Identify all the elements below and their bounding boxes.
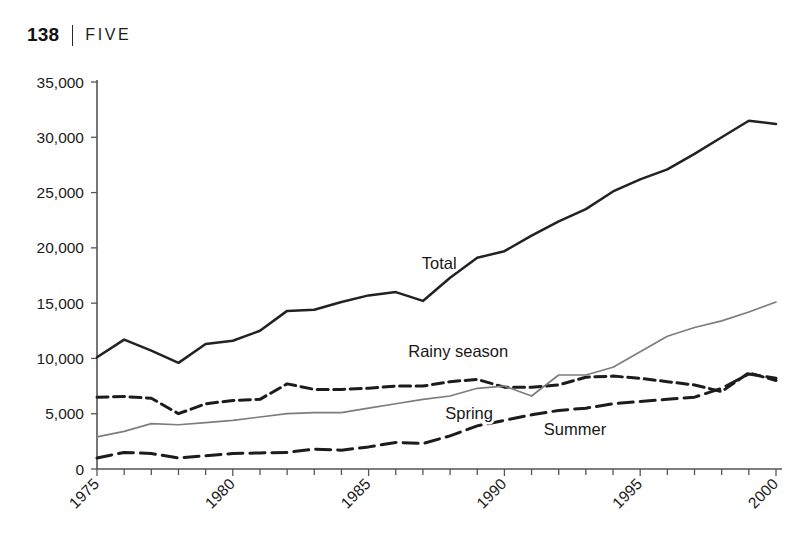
series-label-spring: Spring [445, 404, 493, 422]
series-line-total [97, 121, 776, 363]
series-label-rainy-season: Rainy season [408, 342, 508, 360]
x-tick-label: 1975 [66, 475, 102, 511]
y-tick-label: 0 [75, 461, 84, 478]
x-tick-label: 1980 [202, 475, 239, 512]
line-chart-figure: 05,00010,00015,00020,00025,00030,00035,0… [0, 0, 794, 551]
series-line-spring [97, 302, 776, 437]
series-lines [97, 121, 776, 458]
chart-canvas: 05,00010,00015,00020,00025,00030,00035,0… [0, 0, 794, 551]
y-tick-label: 10,000 [37, 350, 85, 367]
y-tick-label: 15,000 [37, 295, 85, 312]
x-tick-label: 1985 [337, 475, 373, 511]
x-tick-label: 1990 [473, 475, 510, 512]
y-tick-label: 30,000 [37, 129, 85, 146]
y-axis-ticks: 05,00010,00015,00020,00025,00030,00035,0… [37, 74, 97, 478]
x-tick-label: 2000 [745, 475, 782, 512]
series-label-total: Total [422, 254, 457, 272]
y-tick-label: 35,000 [37, 74, 85, 91]
series-label-summer: Summer [544, 420, 607, 438]
y-tick-label: 20,000 [37, 239, 85, 256]
series-line-summer [97, 374, 776, 458]
x-tick-label: 1995 [609, 475, 645, 511]
y-tick-label: 25,000 [37, 184, 85, 201]
y-tick-label: 5,000 [45, 405, 84, 422]
x-axis-ticks: 197519801985199019952000 [66, 469, 782, 512]
series-line-rainy-season [97, 373, 776, 414]
